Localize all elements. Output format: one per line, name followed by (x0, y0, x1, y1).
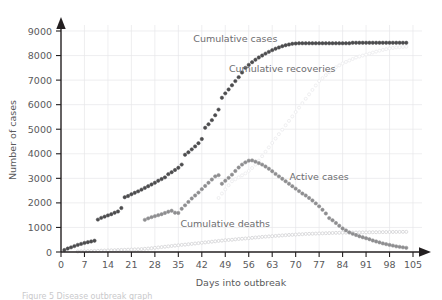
data-point (251, 167, 254, 170)
series-label-cumulative-recoveries: Cumulative recoveries (229, 63, 336, 74)
data-point (348, 231, 351, 234)
figure-caption: Figure 5 Disease outbreak graph (22, 292, 152, 300)
data-point (371, 231, 374, 234)
data-point (146, 184, 149, 187)
data-point (160, 212, 163, 215)
data-point (214, 175, 217, 178)
data-point (341, 62, 344, 65)
data-point (358, 55, 361, 58)
data-point (83, 241, 86, 244)
data-point (341, 227, 344, 230)
data-point (133, 191, 136, 194)
data-point (86, 240, 89, 243)
x-tick-label: 56 (243, 259, 255, 270)
data-point (291, 233, 294, 236)
data-point (214, 114, 217, 117)
data-point (361, 41, 364, 44)
data-point (194, 242, 197, 245)
data-point (163, 245, 166, 248)
data-point (237, 166, 240, 169)
data-point (294, 42, 297, 45)
data-point (398, 230, 401, 233)
data-point (113, 249, 116, 252)
data-point (307, 196, 310, 199)
data-point (89, 240, 92, 243)
data-point (368, 238, 371, 241)
data-point (378, 231, 381, 234)
data-point (116, 249, 119, 252)
data-point (140, 248, 143, 251)
data-point (234, 238, 237, 241)
data-point (384, 41, 387, 44)
data-point (187, 200, 190, 203)
data-point (79, 242, 82, 245)
y-tick-label: 3000 (28, 173, 52, 184)
data-point (311, 88, 314, 91)
data-point (298, 106, 301, 109)
x-tick-label: 63 (266, 259, 278, 270)
data-point (113, 211, 116, 214)
data-point (368, 52, 371, 55)
data-point (388, 231, 391, 234)
data-point (153, 246, 156, 249)
data-point (398, 41, 401, 44)
data-point (261, 235, 264, 238)
data-point (294, 187, 297, 190)
data-point (294, 111, 297, 114)
data-point (106, 214, 109, 217)
data-point (163, 211, 166, 214)
data-point (277, 46, 280, 49)
data-point (147, 247, 150, 250)
y-tick-label: 1000 (28, 222, 52, 233)
data-point (405, 41, 408, 44)
data-point (69, 246, 72, 249)
data-point (210, 178, 213, 181)
data-point (220, 239, 223, 242)
x-axis-title: Days into outbreak (196, 277, 287, 288)
data-point (197, 142, 200, 145)
data-point (140, 188, 143, 191)
data-point (354, 233, 357, 236)
data-point (204, 241, 207, 244)
x-tick-label: 98 (383, 259, 395, 270)
data-point (267, 167, 270, 170)
data-point (254, 236, 257, 239)
data-point (217, 173, 220, 176)
data-point (224, 239, 227, 242)
data-point (264, 150, 267, 153)
data-point (368, 41, 371, 44)
data-point (381, 231, 384, 234)
data-point (110, 212, 113, 215)
data-point (284, 44, 287, 47)
data-point (200, 137, 203, 140)
data-point (314, 202, 317, 205)
data-point (318, 232, 321, 235)
data-point (401, 246, 404, 249)
data-point (120, 248, 123, 251)
series-label-active-cases: Active cases (290, 171, 349, 182)
data-point (187, 243, 190, 246)
data-point (150, 183, 153, 186)
data-point (170, 170, 173, 173)
data-point (177, 211, 180, 214)
data-point (391, 46, 394, 49)
data-point (334, 42, 337, 45)
data-point (96, 218, 99, 221)
data-point (388, 41, 391, 44)
data-point (301, 192, 304, 195)
data-point (170, 244, 173, 247)
data-point (63, 248, 66, 251)
data-point (405, 246, 408, 249)
data-point (116, 210, 119, 213)
data-point (240, 163, 243, 166)
data-point (381, 242, 384, 245)
data-point (281, 177, 284, 180)
data-point (217, 196, 220, 199)
data-point (274, 172, 277, 175)
data-point (318, 80, 321, 83)
data-point (338, 231, 341, 234)
data-point (234, 79, 237, 82)
data-point (230, 180, 233, 183)
data-point (308, 232, 311, 235)
data-point (193, 194, 196, 197)
